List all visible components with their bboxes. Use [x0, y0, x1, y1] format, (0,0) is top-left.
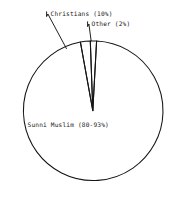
slice-label-christians: Christians (10%): [51, 10, 113, 17]
slice-label-other: Other (2%): [92, 20, 131, 27]
slice-label-sunni-muslim: Sunni Muslim (80-93%): [28, 121, 109, 128]
pie-chart-canvas: Christians (10%) Other (2%) Sunni Muslim…: [0, 0, 179, 202]
pie-chart-figure: Christians (10%) Other (2%) Sunni Muslim…: [0, 0, 179, 202]
